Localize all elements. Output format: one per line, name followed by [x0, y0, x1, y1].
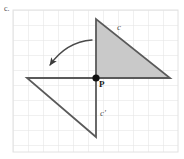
- rotation-diagram: c. c c' P: [0, 0, 184, 159]
- shape-label-c-prime: c': [100, 109, 106, 118]
- shape-label-c: c: [117, 23, 121, 32]
- problem-label: c.: [4, 5, 10, 13]
- figure-canvas: [0, 0, 184, 159]
- center-point-label: P: [99, 80, 105, 89]
